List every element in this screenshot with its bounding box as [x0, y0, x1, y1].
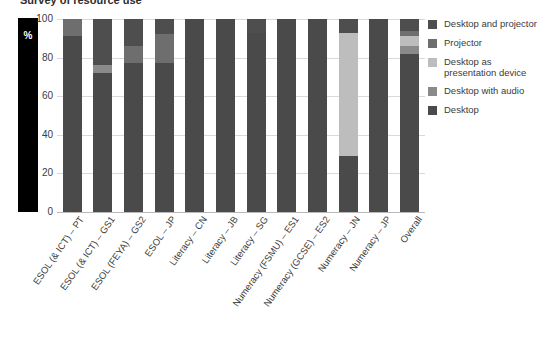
bar-segment [63, 19, 82, 36]
bar-segment [339, 33, 358, 157]
bar-column[interactable] [308, 19, 327, 212]
bar-segment [277, 19, 296, 212]
y-tick-label-60: 60 [19, 90, 53, 101]
bar-segment [247, 33, 266, 212]
bar-column[interactable] [216, 19, 235, 212]
bar-column[interactable] [185, 19, 204, 212]
legend-swatch-icon [428, 39, 437, 48]
legend-label: Desktop [444, 104, 546, 115]
bar-column[interactable] [339, 19, 358, 212]
bar-segment [124, 46, 143, 63]
bar-segment [155, 63, 174, 212]
x-axis-label: ESOL (FEYA) – GS2 [88, 214, 147, 292]
bar-segment [63, 36, 82, 212]
bar-segment [155, 19, 174, 34]
plot-area [57, 19, 425, 212]
bar-segment [185, 19, 204, 212]
legend-swatch-icon [428, 106, 437, 115]
bar-column[interactable] [369, 19, 388, 212]
legend-swatch-icon [428, 20, 437, 29]
y-tick-label-100: 100 [19, 13, 53, 24]
bar-column[interactable] [93, 19, 112, 212]
bar-segment [247, 19, 266, 33]
bar-segment [339, 19, 358, 33]
y-tick-label-0: 0 [19, 206, 53, 217]
legend-item[interactable]: Desktop with audio [428, 85, 546, 97]
legend-item[interactable]: Desktop and projector [428, 18, 546, 30]
y-tick-label-20: 20 [19, 167, 53, 178]
bar-column[interactable] [124, 19, 143, 212]
legend-swatch-icon [428, 87, 437, 96]
bar-segment [400, 54, 419, 212]
y-tick-label-80: 80 [19, 52, 53, 63]
y-tick-label-40: 40 [19, 129, 53, 140]
bar-segment [400, 31, 419, 37]
bar-column[interactable] [277, 19, 296, 212]
bar-segment [339, 156, 358, 212]
bar-segment [124, 19, 143, 46]
stacked-bar-chart: Survey of resource use % 100806040200 ES… [0, 0, 546, 338]
bar-segment [124, 63, 143, 212]
bar-segment [308, 19, 327, 212]
x-axis-label: Overall [397, 214, 423, 245]
legend-item[interactable]: Desktop as presentation device [428, 56, 546, 78]
x-axis-labels: ESOL (& ICT) – PTESOL (& ICT) – GS1ESOL … [57, 214, 425, 334]
bar-segment [400, 36, 419, 46]
bar-segment [93, 19, 112, 65]
gridline-0 [57, 212, 425, 213]
bar-segment [400, 46, 419, 54]
bar-segment [216, 19, 235, 212]
y-axis-ticks: 100806040200 [19, 19, 53, 212]
chart-legend: Desktop and projectorProjectorDesktop as… [428, 18, 546, 123]
legend-label: Desktop and projector [444, 18, 546, 29]
bar-segment [93, 65, 112, 73]
bar-column[interactable] [155, 19, 174, 212]
bar-column[interactable] [247, 19, 266, 212]
bar-column[interactable] [400, 19, 419, 212]
chart-title: Survey of resource use [20, 0, 320, 6]
bar-segment [93, 73, 112, 212]
legend-label: Projector [444, 37, 546, 48]
legend-swatch-icon [428, 58, 437, 67]
bar-segment [155, 34, 174, 63]
bar-segment [400, 19, 419, 31]
legend-item[interactable]: Projector [428, 37, 546, 49]
legend-label: Desktop as presentation device [444, 56, 546, 78]
legend-label: Desktop with audio [444, 85, 546, 96]
bar-column[interactable] [63, 19, 82, 212]
legend-item[interactable]: Desktop [428, 104, 546, 116]
bar-segment [369, 19, 388, 212]
x-axis-label: ESOL (& ICT) – GS1 [58, 214, 117, 292]
